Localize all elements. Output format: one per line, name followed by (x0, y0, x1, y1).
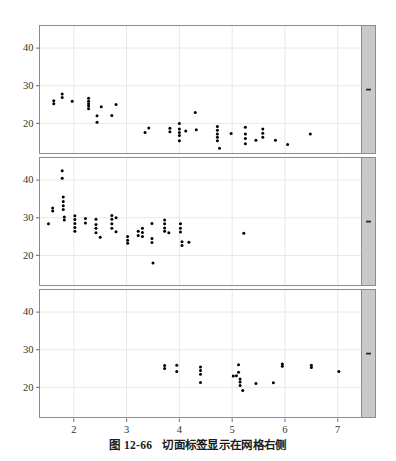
caption-number: 图 12-66 (109, 439, 152, 451)
data-point (62, 204, 65, 207)
data-point (178, 131, 181, 134)
x-tick-label: 2 (71, 424, 76, 435)
data-point (141, 227, 144, 230)
data-point (181, 240, 184, 243)
data-point (168, 130, 171, 133)
data-point (178, 139, 181, 142)
data-point (175, 370, 178, 373)
data-point (241, 389, 244, 392)
x-axis: 234567 (71, 419, 340, 435)
data-point (187, 241, 190, 244)
data-point (96, 114, 99, 117)
data-point (178, 122, 181, 125)
y-tick-label: 40 (23, 306, 34, 317)
data-point (61, 96, 64, 99)
data-point (150, 237, 153, 240)
data-point (73, 230, 76, 233)
panel-2: 203040 (23, 158, 376, 286)
data-point (179, 231, 182, 234)
data-point (126, 235, 129, 238)
data-point (94, 227, 97, 230)
data-point (126, 239, 129, 242)
data-point (126, 242, 129, 245)
data-point (216, 136, 219, 139)
data-point (115, 103, 118, 106)
data-point (84, 222, 87, 225)
y-tick-label: 30 (23, 344, 34, 355)
y-tick-label: 20 (23, 250, 34, 261)
data-point (84, 217, 87, 220)
data-point (61, 177, 64, 180)
data-point (115, 230, 118, 233)
data-point (237, 371, 240, 374)
data-point (281, 365, 284, 368)
caption-title: 切面标签显示在网格右侧 (162, 439, 286, 451)
data-point (244, 126, 247, 129)
y-tick-label: 30 (23, 80, 34, 91)
data-point (87, 97, 90, 100)
data-point (61, 93, 64, 96)
data-point (110, 222, 113, 225)
data-point (175, 364, 178, 367)
data-point (310, 366, 313, 369)
data-point (179, 227, 182, 230)
data-point (218, 147, 221, 150)
data-point (254, 139, 257, 142)
data-point (52, 102, 55, 105)
data-point (87, 105, 90, 108)
data-point (239, 384, 242, 387)
data-point (272, 381, 275, 384)
data-point (261, 136, 264, 139)
data-point (237, 363, 240, 366)
data-point (150, 222, 153, 225)
panel-1: 203040 (23, 26, 376, 154)
figure-container: 203040203040203040234567 图 12-66切面标签显示在网… (0, 0, 396, 461)
data-point (52, 99, 55, 102)
data-point (62, 208, 65, 211)
data-point (244, 132, 247, 135)
data-point (179, 222, 182, 225)
data-point (239, 381, 242, 384)
y-tick-label: 20 (23, 118, 34, 129)
data-point (216, 125, 219, 128)
y-tick-label: 30 (23, 212, 34, 223)
data-point (110, 227, 113, 230)
data-point (230, 132, 233, 135)
data-point (194, 111, 197, 114)
data-point (199, 381, 202, 384)
data-point (244, 142, 247, 145)
panel-background (40, 26, 362, 154)
data-point (94, 231, 97, 234)
trellis-scatter-plot: 203040203040203040234567 (0, 0, 396, 461)
data-point (261, 128, 264, 131)
data-point (216, 132, 219, 135)
data-point (99, 236, 102, 239)
data-point (115, 216, 118, 219)
data-point (144, 131, 147, 134)
y-tick-label: 40 (23, 42, 34, 53)
data-point (195, 128, 198, 131)
data-point (141, 231, 144, 234)
data-point (163, 226, 166, 229)
data-point (163, 367, 166, 370)
data-point (73, 222, 76, 225)
data-point (178, 128, 181, 131)
panel-background (40, 158, 362, 286)
strip-label-mark-2 (366, 221, 371, 223)
data-point (62, 196, 65, 199)
x-tick-label: 7 (335, 424, 340, 435)
data-point (61, 169, 64, 172)
data-point (254, 382, 257, 385)
data-point (199, 369, 202, 372)
data-point (163, 364, 166, 367)
data-point (309, 132, 312, 135)
y-tick-label: 20 (23, 382, 34, 393)
data-point (147, 126, 150, 129)
panel-background (40, 290, 362, 418)
data-point (244, 137, 247, 140)
data-point (163, 218, 166, 221)
data-point (216, 129, 219, 132)
data-point (232, 375, 235, 378)
data-point (167, 231, 170, 234)
data-point (261, 132, 264, 135)
